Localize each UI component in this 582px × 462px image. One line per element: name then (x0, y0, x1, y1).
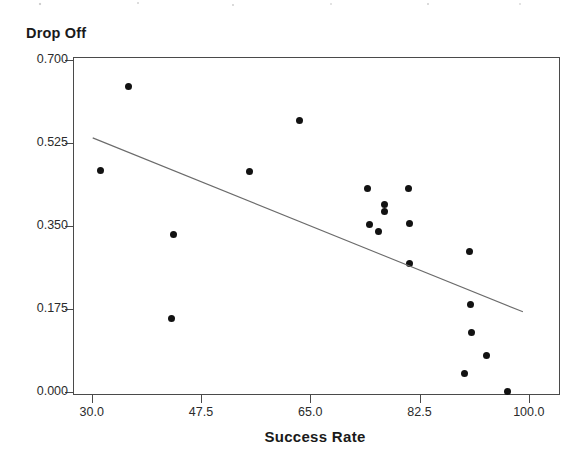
x-tick-label: 47.5 (189, 405, 213, 419)
y-tick-label: 0.525 (37, 135, 73, 149)
x-tick-mark (529, 395, 530, 403)
y-tick-label: 0.000 (37, 384, 73, 398)
x-tick-mark (92, 395, 93, 403)
y-tick-label: 0.350 (37, 218, 73, 232)
x-tick-label: 65.0 (298, 405, 322, 419)
regression-line-layer (74, 58, 561, 396)
x-tick-label: 30.0 (80, 405, 104, 419)
x-axis-title: Success Rate (216, 428, 365, 445)
x-tick-label: 82.5 (407, 405, 431, 419)
y-tick-label: 0.175 (37, 301, 73, 315)
y-tick-label: 0.700 (37, 52, 73, 66)
x-tick-mark (201, 395, 202, 403)
x-tick-mark (420, 395, 421, 403)
plot-area-frame (73, 57, 560, 395)
x-axis-title-row: Success Rate (0, 428, 582, 445)
y-axis-title: Drop Off (26, 25, 86, 41)
x-tick-label: 100.0 (513, 405, 544, 419)
scan-noise-artifact (0, 0, 582, 10)
x-tick-mark (310, 395, 311, 403)
regression-line (93, 138, 523, 312)
scatter-chart: Drop Off 0.0000.1750.3500.5250.700 30.04… (0, 0, 582, 462)
